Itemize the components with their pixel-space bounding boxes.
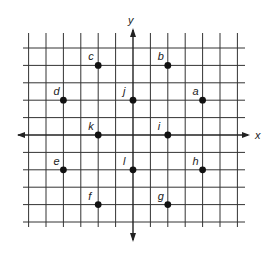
point-marker <box>199 166 206 173</box>
y-axis-down-arrow-icon <box>130 233 136 242</box>
y-axis-label: y <box>127 14 135 26</box>
point-marker <box>130 166 137 173</box>
point-l: l <box>123 155 136 173</box>
point-c: c <box>88 50 101 68</box>
point-label: l <box>123 155 126 167</box>
point-b: b <box>158 50 171 68</box>
point-label: k <box>88 120 94 132</box>
grid-plot: x y abcdefghijkl <box>0 0 273 258</box>
point-label: a <box>193 85 199 97</box>
y-axis-up-arrow-icon <box>130 28 136 37</box>
point-label: c <box>88 50 94 62</box>
x-axis-left-arrow-icon <box>17 132 25 138</box>
point-marker <box>60 166 67 173</box>
point-f: f <box>88 190 101 208</box>
coordinate-grid-diagram: x y abcdefghijkl <box>0 0 273 258</box>
point-label: e <box>53 155 59 167</box>
point-label: g <box>158 190 165 202</box>
point-marker <box>95 201 102 208</box>
point-label: i <box>158 120 161 132</box>
point-e: e <box>53 155 66 173</box>
point-marker <box>95 62 102 69</box>
point-label: b <box>158 50 164 62</box>
points: abcdefghijkl <box>53 50 206 208</box>
point-marker <box>164 132 171 139</box>
x-axis-right-arrow-icon <box>242 132 250 138</box>
x-axis-label: x <box>254 129 261 141</box>
point-marker <box>164 62 171 69</box>
point-h: h <box>193 155 206 173</box>
point-marker <box>60 97 67 104</box>
point-d: d <box>53 85 66 103</box>
point-marker <box>164 201 171 208</box>
grid-lines <box>23 33 245 227</box>
point-label: j <box>121 85 126 97</box>
point-label: h <box>193 155 199 167</box>
point-a: a <box>193 85 206 103</box>
point-g: g <box>158 190 171 208</box>
point-marker <box>199 97 206 104</box>
point-marker <box>95 132 102 139</box>
point-j: j <box>121 85 136 103</box>
point-label: d <box>53 85 60 97</box>
point-label: f <box>88 190 92 202</box>
point-marker <box>130 97 137 104</box>
